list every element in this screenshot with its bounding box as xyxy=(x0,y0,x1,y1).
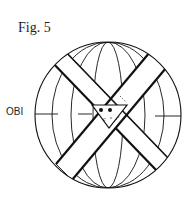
svg-text:c: c xyxy=(103,116,106,122)
diagram: c c xyxy=(0,0,195,203)
